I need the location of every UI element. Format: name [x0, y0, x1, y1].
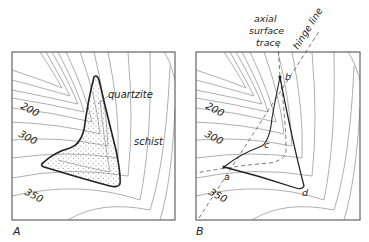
- contour-label-350: 350: [23, 186, 45, 205]
- label-schist: schist: [134, 136, 164, 147]
- label-quartzite: quartzite: [108, 89, 153, 100]
- axial-trace-label-line1: axial: [254, 13, 277, 24]
- axial-trace-label-line2: surface: [249, 25, 284, 36]
- contour-label-200: 200: [19, 100, 41, 119]
- point-label-d: d: [302, 187, 309, 198]
- axial-trace-label-line3: trace: [256, 37, 281, 48]
- contour-label-300: 300: [17, 128, 39, 147]
- point-label-c: c: [264, 139, 270, 150]
- contour-label-300-b: 300: [203, 128, 225, 147]
- outcrop-outline-b: [224, 77, 304, 189]
- point-label-a: a: [224, 171, 230, 182]
- contour-label-350-b: 350: [207, 186, 229, 205]
- point-b-marker: [278, 75, 281, 78]
- geologic-map-figure: quartzite schist 200 300 350 A: [0, 0, 369, 242]
- hinge-line-label: hinge line: [290, 5, 324, 51]
- point-label-b: b: [285, 71, 291, 82]
- upper-contact-acb: [224, 77, 280, 167]
- panel-a: quartzite schist 200 300 350 A: [12, 52, 175, 238]
- panel-b: b a c d 200 300 350 axial surface trace …: [196, 5, 360, 238]
- panel-label-a: A: [12, 225, 21, 238]
- panel-label-b: B: [196, 225, 204, 238]
- point-a-marker: [222, 165, 225, 168]
